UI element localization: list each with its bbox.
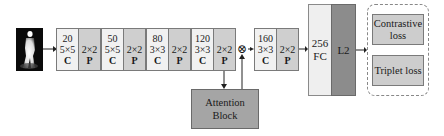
layer-kernel: 3×3 [258,44,274,55]
multiply-node: ⊗ [236,43,248,55]
fc-layer: 256 FC [308,4,332,96]
layer-channels: 160 [258,33,273,44]
l2-label: L2 [337,44,349,56]
l2-layer: L2 [331,4,356,96]
layer-kernel: 2×2 [280,44,296,55]
multiply-icon: ⊗ [237,42,247,56]
contrastive-loss-label: Contrastive loss [373,18,423,42]
fc-label: FC [313,50,326,63]
contrastive-loss-box: Contrastive loss [372,14,424,45]
triplet-loss-box: Triplet loss [372,55,424,86]
triplet-loss-label: Triplet loss [374,65,421,77]
layer-type: P [284,55,290,66]
attention-label-1: Attention [205,96,245,109]
fc-size: 256 [312,37,329,50]
pool-layer-5: 2×2 P [276,28,299,71]
layer-type: C [262,55,269,66]
attention-label-2: Block [212,109,237,122]
attention-block: Attention Block [191,89,259,129]
conv-layer-5: 160 3×3 C [254,28,277,71]
